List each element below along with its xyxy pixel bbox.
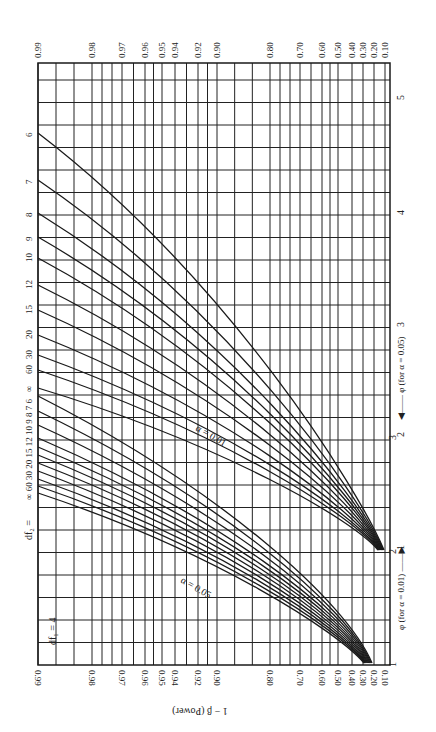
power-tick-top: 0.40 <box>347 42 357 58</box>
phi-axis-label-alpha01: φ (for α = 0.01) ——▶ <box>396 547 406 630</box>
df2-labels-alpha05: ∞ 60 30 20 15 12 10 9 8 7 6 <box>24 399 34 500</box>
df2-label: 20 <box>24 330 34 340</box>
power-tick-top: 0.20 <box>369 42 379 58</box>
phi-tick-alpha05: 4 <box>395 210 406 215</box>
df2-label: 12 <box>24 280 34 289</box>
power-tick-top: 0.97 <box>117 42 127 58</box>
df2-label: 9 <box>24 236 34 241</box>
power-tick-bottom: 0.50 <box>333 670 343 686</box>
power-tick-bottom: 0.97 <box>117 670 127 686</box>
power-tick-top: 0.70 <box>295 42 305 58</box>
alpha-05-label: α = 0.05 <box>179 574 213 600</box>
df2-label: ∞ <box>24 386 34 392</box>
power-tick-top: 0.99 <box>33 42 43 58</box>
power-tick-top: 0.80 <box>265 42 275 58</box>
power-curves <box>38 133 384 663</box>
power-tick-bottom: 0.99 <box>33 670 43 686</box>
power-tick-bottom: 0.90 <box>212 670 222 686</box>
power-tick-top: 0.60 <box>317 42 327 58</box>
power-tick-bottom: 0.80 <box>265 670 275 686</box>
phi-tick-alpha01: 3 <box>387 435 398 440</box>
power-tick-bottom: 0.10 <box>380 670 390 686</box>
power-tick-bottom: 0.94 <box>170 670 180 686</box>
power-tick-top: 0.95 <box>157 42 167 58</box>
df2-label: 6 <box>24 132 34 137</box>
df2-label: 10 <box>24 253 34 263</box>
power-tick-top: 0.10 <box>380 42 390 58</box>
df2-label: 30 <box>24 350 34 360</box>
power-tick-top: 0.96 <box>140 42 150 58</box>
power-curve <box>38 133 384 550</box>
df2-caption: df₂ = <box>23 520 34 540</box>
power-curve <box>38 237 382 550</box>
phi-tick-alpha05: 3 <box>395 322 406 327</box>
df1-caption: df₁ = 4 <box>47 618 58 645</box>
df2-label: 8 <box>24 212 34 217</box>
power-tick-top: 0.50 <box>333 42 343 58</box>
phi-tick-alpha05: 5 <box>395 95 406 100</box>
power-chart: 0.990.990.980.980.970.970.960.960.950.95… <box>0 0 436 732</box>
phi-axis-label-alpha05: ◀—— φ (for α = 0.05) <box>396 337 406 420</box>
power-curve <box>38 180 383 550</box>
power-curve <box>38 455 368 663</box>
df2-label: 60 <box>24 365 34 375</box>
chart-grid <box>38 63 390 665</box>
power-tick-top: 0.92 <box>193 42 203 58</box>
power-curve <box>38 463 367 663</box>
power-tick-top: 0.30 <box>358 42 368 58</box>
power-tick-top: 0.94 <box>170 42 180 58</box>
power-tick-bottom: 0.20 <box>369 670 379 686</box>
df2-label: 15 <box>24 305 34 315</box>
power-tick-bottom: 0.95 <box>157 670 167 686</box>
power-tick-bottom: 0.96 <box>140 670 150 686</box>
power-tick-bottom: 0.30 <box>358 670 368 686</box>
power-tick-bottom: 0.60 <box>317 670 327 686</box>
power-axis-label: 1 − β (Power) <box>172 705 227 717</box>
power-tick-bottom: 0.40 <box>347 670 357 686</box>
chart-labels: 0.990.990.980.980.970.970.960.960.950.95… <box>23 42 406 717</box>
power-tick-top: 0.98 <box>87 42 97 58</box>
power-tick-bottom: 0.98 <box>87 670 97 686</box>
power-tick-bottom: 0.70 <box>295 670 305 686</box>
power-tick-top: 0.90 <box>212 42 222 58</box>
power-tick-bottom: 0.92 <box>193 670 203 686</box>
power-curve <box>38 493 364 663</box>
power-curve <box>38 479 366 663</box>
df2-label: 7 <box>24 179 34 184</box>
